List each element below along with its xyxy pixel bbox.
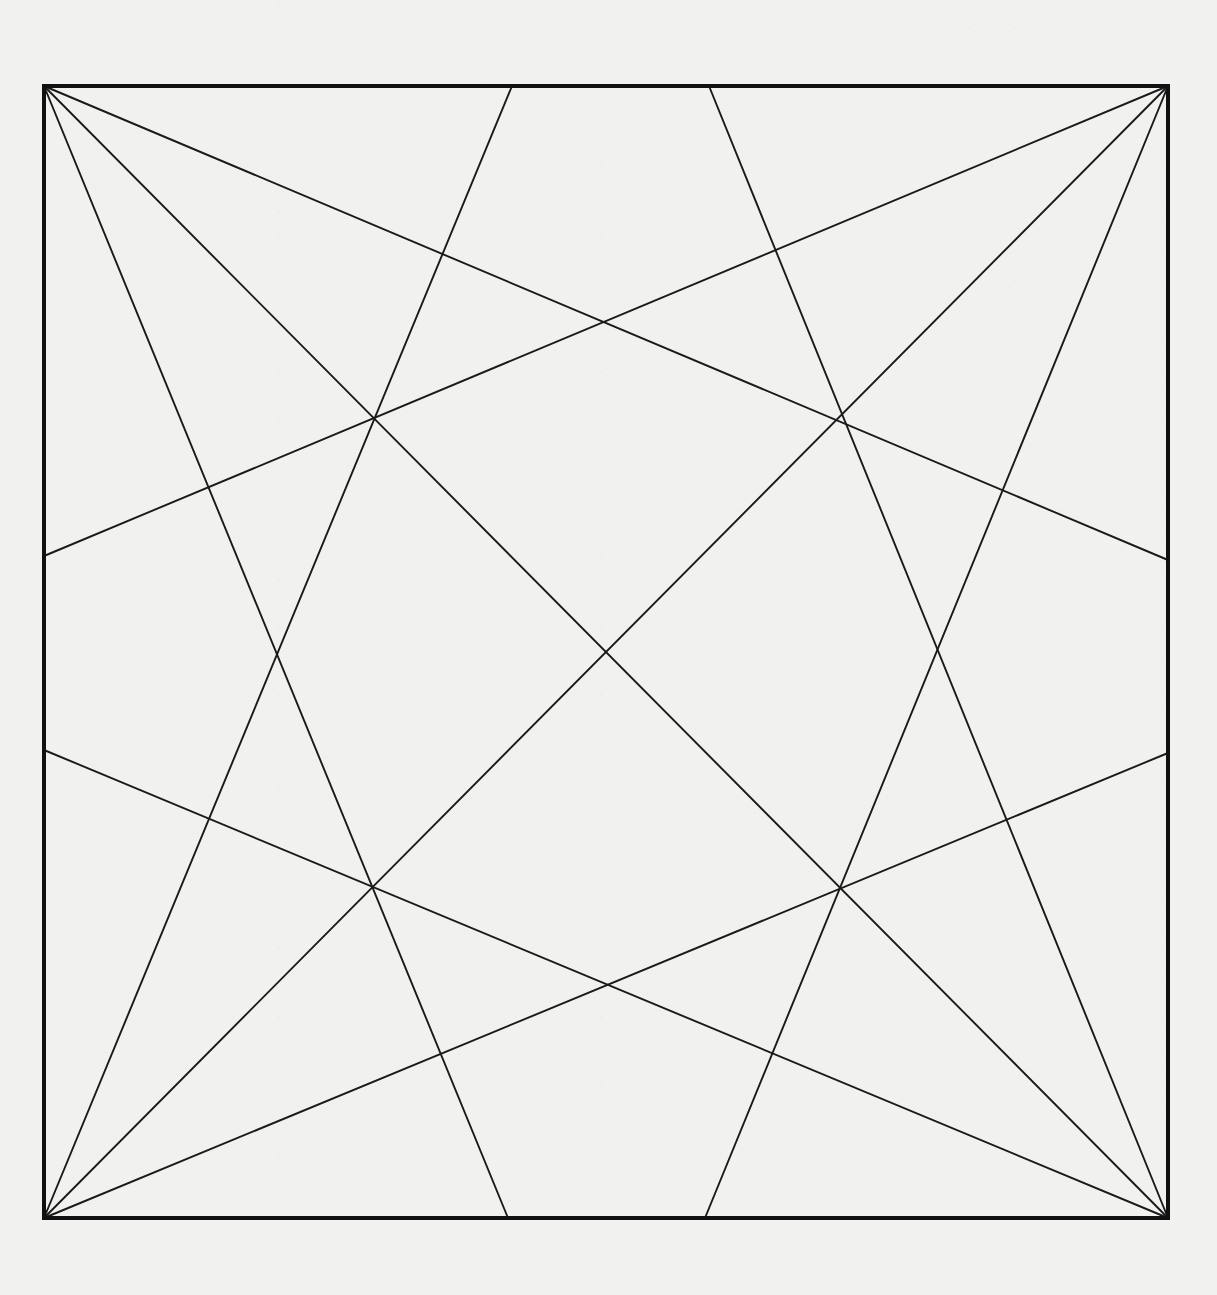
figure-canvas: Square with corner-to-edge chord constru… (0, 0, 1217, 1295)
geometric-line-figure: Square with corner-to-edge chord constru… (0, 0, 1217, 1295)
figure-background (0, 0, 1217, 1295)
